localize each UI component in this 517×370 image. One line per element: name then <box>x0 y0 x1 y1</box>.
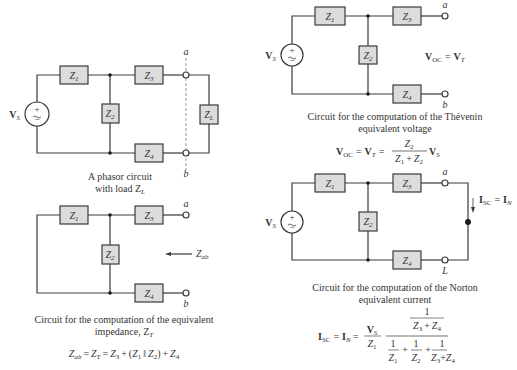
wire <box>189 124 209 153</box>
voltage-source-icon: + − <box>281 44 303 66</box>
wire <box>37 215 102 293</box>
svg-text:VS: VS <box>429 146 440 159</box>
svg-text:1: 1 <box>440 338 445 349</box>
terminal-b <box>183 150 189 156</box>
svg-text:Z2: Z2 <box>404 138 414 151</box>
caption-line1: Circuit for the computation of the equiv… <box>35 314 214 325</box>
svg-text:−: − <box>289 55 294 65</box>
caption-line2: equivalent voltage <box>358 123 432 134</box>
zab-label: Zab <box>196 248 209 261</box>
node-dot <box>108 73 112 77</box>
svg-text:+: + <box>289 45 294 55</box>
svg-text:1: 1 <box>425 306 430 317</box>
impedance-zl: ZL <box>200 105 218 124</box>
impedance-z4: Z4 <box>393 251 421 269</box>
wire <box>292 183 315 211</box>
source-label: VS <box>265 50 276 63</box>
svg-text:−: − <box>34 114 39 124</box>
node-dot <box>465 219 471 225</box>
wire <box>37 126 135 153</box>
svg-text:1: 1 <box>414 338 419 349</box>
wire <box>189 75 209 105</box>
svg-text:+: + <box>402 344 408 355</box>
impedance-z3: Z3 <box>135 66 163 84</box>
impedance-z3: Z3 <box>135 206 163 224</box>
terminal-b-label: L <box>441 265 448 276</box>
terminal-b-label: b <box>184 298 189 309</box>
terminal-a-label: a <box>443 166 448 177</box>
terminal-a <box>183 72 189 78</box>
norton-formula: ISC=IN= VS Z1 1 Z3+Z4 1 Z1 + 1 Z2 + 1 Z3… <box>318 306 455 365</box>
impedance-formula: Zab=ZT=Z3+(Z1‖Z2)+Z4 <box>69 348 180 361</box>
wire <box>292 66 393 94</box>
impedance-z2: Z2 <box>102 104 119 123</box>
impedance-z1: Z1 <box>315 174 345 192</box>
impedance-z4: Z4 <box>135 144 163 162</box>
node-dot <box>108 151 112 155</box>
svg-text:VS: VS <box>367 324 378 337</box>
node-dot <box>108 213 112 217</box>
caption-line1: A phasor circuit <box>88 171 152 182</box>
arrow-down-icon <box>471 198 475 213</box>
terminal-a-label: a <box>184 198 189 209</box>
terminal-a-label: a <box>184 46 189 57</box>
impedance-z4: Z4 <box>135 284 163 302</box>
svg-text:Z3+Z4: Z3+Z4 <box>431 352 455 365</box>
node-dot <box>366 258 370 262</box>
phasor-circuit: + − VS Z1 Z2 Z3 Z4 ZL a b A phasor circu… <box>9 46 218 196</box>
svg-text:+: + <box>289 212 294 222</box>
terminal-b-label: b <box>443 99 448 110</box>
terminal-a <box>442 180 448 186</box>
svg-text:VOC=VT=: VOC=VT= <box>336 146 385 159</box>
svg-text:+: + <box>34 104 39 114</box>
impedance-z3: Z3 <box>393 174 421 192</box>
arrow-left-icon <box>165 252 192 256</box>
wire <box>292 16 315 44</box>
svg-text:ISC=IN=: ISC=IN= <box>318 331 359 344</box>
impedance-z1: Z1 <box>315 7 345 25</box>
node-dot <box>366 181 370 185</box>
wire <box>37 75 60 102</box>
voltage-source-icon: + − <box>25 102 49 126</box>
isc-label: ISC=IN <box>479 194 512 207</box>
caption-line2: with load ZL <box>95 183 145 196</box>
terminal-a <box>442 13 448 19</box>
impedance-z4: Z4 <box>393 85 421 103</box>
terminal-b-label: b <box>184 168 189 179</box>
norton-circuit: + − VS Z1 Z2 Z3 Z4 a L ISC=IN Circuit fo… <box>265 166 512 365</box>
caption-line1: Circuit for the computation of the Théve… <box>308 111 483 122</box>
node-dot <box>366 92 370 96</box>
svg-text:Z2: Z2 <box>411 352 421 365</box>
svg-text:Z3+Z4: Z3+Z4 <box>413 320 441 333</box>
svg-text:Z1: Z1 <box>367 338 377 351</box>
source-label: VS <box>265 217 276 230</box>
voc-label: VOC=VT <box>425 51 466 64</box>
thevenin-formula: VOC=VT= Z2 Z1+Z2 VS <box>336 138 440 166</box>
terminal-a-label: a <box>443 0 448 10</box>
impedance-z2: Z2 <box>102 245 119 264</box>
svg-text:1: 1 <box>391 338 396 349</box>
caption-line1: Circuit for the computation of the Norto… <box>312 282 478 293</box>
terminal-b <box>442 257 448 263</box>
terminal-a <box>183 212 189 218</box>
impedance-z1: Z1 <box>60 66 88 84</box>
thevenin-circuit: + − VS Z1 Z2 Z3 Z4 a b VOC=VT Circuit fo… <box>265 0 482 166</box>
node-dot <box>366 14 370 18</box>
impedance-z1: Z1 <box>60 206 88 224</box>
svg-text:−: − <box>289 222 294 232</box>
voltage-source-icon: + − <box>281 211 303 233</box>
terminal-b <box>183 290 189 296</box>
caption-line2: equivalent current <box>359 294 432 305</box>
wire <box>292 233 393 260</box>
circuit-figure: + − VS Z1 Z2 Z3 Z4 ZL a b A phasor circu… <box>0 0 517 370</box>
impedance-z2: Z2 <box>359 212 377 231</box>
impedance-z3: Z3 <box>393 7 421 25</box>
caption-line2: impedance, ZT <box>95 326 154 339</box>
svg-text:Z1: Z1 <box>388 352 398 365</box>
svg-text:Z1+Z2: Z1+Z2 <box>395 153 423 166</box>
node-dot <box>108 291 112 295</box>
impedance-circuit: Z1 Z2 Z3 Z4 a b Zab Circuit for the comp… <box>35 198 214 361</box>
impedance-z2: Z2 <box>359 46 377 64</box>
short-wire <box>448 183 468 260</box>
terminal-b <box>442 91 448 97</box>
